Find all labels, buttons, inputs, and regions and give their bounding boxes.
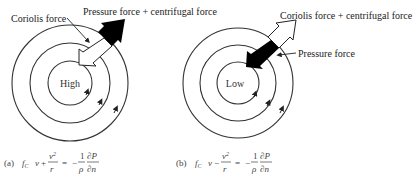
frac3-num: ∂P	[260, 151, 270, 161]
pressure-force-label: Pressure force	[298, 48, 355, 59]
equals: =	[62, 158, 67, 168]
flow-arrow-icon	[114, 108, 117, 113]
frac1-den: r	[223, 164, 227, 174]
frac2-den: ρ	[78, 164, 84, 174]
minus: −	[245, 158, 250, 168]
coriolis-leader-line	[67, 18, 88, 41]
panel-a-high-pressure: Coriolis force Pressure force + centrifu…	[11, 6, 217, 141]
frac2-den: ρ	[251, 164, 257, 174]
flow-arrow-icon	[86, 91, 88, 95]
center-label-high: High	[60, 78, 80, 89]
flow-arrow-icon	[99, 101, 101, 105]
term-v: v	[35, 158, 39, 168]
coriolis-force-label: Coriolis force	[11, 13, 67, 24]
term-fc: fC	[22, 158, 30, 169]
frac3-num: ∂P	[87, 151, 97, 161]
minus: −	[72, 158, 77, 168]
equals: =	[235, 158, 240, 168]
center-label-low: Low	[226, 78, 245, 89]
equation-a: (a) fC v + v2 r = − 1 ρ ∂P ∂n	[4, 151, 99, 174]
figure-canvas: Coriolis force Pressure force + centrifu…	[0, 0, 413, 179]
frac1-num: v2	[222, 151, 229, 161]
operator: −	[214, 158, 219, 168]
coriolis-force-arrow-icon	[79, 38, 112, 66]
flow-arrow-icon	[254, 93, 256, 97]
frac1-num: v2	[49, 151, 56, 161]
pressure-leader-line	[279, 53, 296, 55]
equation-tag: (a)	[4, 158, 14, 168]
panel-b-low-pressure: Coriolis force + centrifugal force Press…	[183, 10, 413, 138]
frac1-den: r	[50, 164, 54, 174]
equation-tag: (b)	[176, 158, 187, 168]
frac3-den: ∂n	[260, 164, 269, 174]
frac2-num: 1	[253, 151, 258, 161]
pressure-centrifugal-label: Pressure force + centrifugal force	[83, 6, 217, 17]
term-v: v	[208, 158, 212, 168]
flow-arrow-icon	[280, 108, 283, 113]
equation-b: (b) fC v − v2 r = − 1 ρ ∂P ∂n	[176, 151, 272, 174]
operator: +	[41, 158, 46, 168]
frac3-den: ∂n	[87, 164, 96, 174]
pressure-force-arrow-icon	[246, 40, 279, 69]
frac2-num: 1	[80, 151, 85, 161]
term-fc: fC	[195, 158, 203, 169]
coriolis-centrifugal-label: Coriolis force + centrifugal force	[280, 10, 413, 21]
